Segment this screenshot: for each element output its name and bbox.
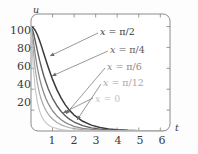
y-tick-label-60: 60 xyxy=(3,61,31,72)
y-tick-label-40: 40 xyxy=(3,79,31,90)
x-tick-label-2: 2 xyxy=(66,135,82,146)
curve-label-4: x = 0 xyxy=(95,94,120,104)
curve-label-0: x = π/2 xyxy=(100,27,135,37)
y-axis-label: u xyxy=(33,4,39,15)
x-tick-label-1: 1 xyxy=(44,135,60,146)
x-tick-label-5: 5 xyxy=(132,135,148,146)
x-tick-label-3: 3 xyxy=(88,135,104,146)
curve-label-2: x = π/6 xyxy=(107,62,142,72)
curve-label-1: x = π/4 xyxy=(110,45,145,55)
y-tick-label-80: 80 xyxy=(3,43,31,54)
y-tick-label-20: 20 xyxy=(3,97,31,108)
y-tick-label-100: 100 xyxy=(3,25,31,36)
curve-label-3: x = π/12 xyxy=(103,78,144,88)
x-tick-label-6: 6 xyxy=(154,135,170,146)
x-axis-label: t xyxy=(175,122,179,133)
x-tick-label-4: 4 xyxy=(110,135,126,146)
chart-figure: 100 80 60 40 20 1 2 3 4 5 6 u t x = π/2x… xyxy=(0,0,198,154)
